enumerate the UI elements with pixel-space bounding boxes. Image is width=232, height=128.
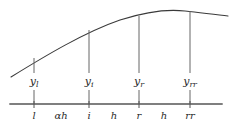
ordinate-label-yi-sub: i <box>91 80 93 89</box>
axis-label-i: i <box>87 111 90 121</box>
interval-label-h-1: h <box>111 111 117 121</box>
axis-label-l: l <box>32 111 35 121</box>
axis-label-r: r <box>137 111 142 121</box>
ordinate-label-yl-sub: l <box>36 80 38 89</box>
axis-label-rr: rr <box>185 111 195 121</box>
interval-label-h-2: h <box>161 111 167 121</box>
ordinate-label-yr: yr <box>134 76 144 89</box>
curve-path <box>11 10 228 77</box>
ordinate-label-yrr-sub: rr <box>189 80 196 89</box>
figure-graphics <box>0 0 232 128</box>
ordinate-label-yi: yi <box>85 76 94 89</box>
ordinate-label-yrr: yrr <box>183 76 196 89</box>
ordinate-label-yl: yl <box>30 76 39 89</box>
ordinate-label-yr-sub: r <box>140 80 144 89</box>
interval-label-alpha-h: αh <box>54 111 67 121</box>
figure-container: yl yi yr yrr l i r rr αh h h <box>0 0 232 128</box>
